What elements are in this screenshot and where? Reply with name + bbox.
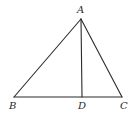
segment-ad	[81, 19, 82, 97]
label-b: B	[8, 100, 16, 111]
label-a: A	[76, 4, 84, 15]
segment-ab	[14, 19, 81, 97]
label-d: D	[77, 100, 86, 111]
label-c: C	[120, 100, 128, 111]
triangle-diagram: A B D C	[0, 0, 139, 113]
segment-ac	[81, 19, 122, 97]
